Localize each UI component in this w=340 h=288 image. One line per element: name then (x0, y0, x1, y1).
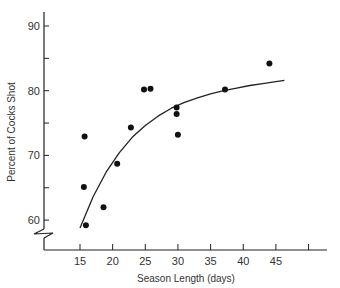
data-points (81, 61, 273, 229)
fitted-curve (80, 80, 284, 228)
data-point (141, 86, 147, 92)
data-point (175, 132, 181, 138)
data-point (222, 86, 228, 92)
x-tick-label: 25 (139, 255, 151, 267)
y-axis-title: Percent of Cocks Shot (6, 82, 17, 182)
data-point (83, 222, 89, 228)
data-point (101, 204, 107, 210)
scatter-chart: 6070809015202530354045 Season Length (da… (0, 0, 340, 288)
y-tick-label: 70 (28, 149, 40, 161)
y-tick-label: 80 (28, 85, 40, 97)
data-point (148, 86, 154, 92)
x-tick-label: 15 (74, 255, 86, 267)
x-tick-label: 35 (204, 255, 216, 267)
data-point (128, 125, 134, 131)
data-point (114, 161, 120, 167)
x-axis-title: Season Length (days) (137, 273, 235, 284)
data-point (174, 105, 180, 111)
y-tick-label: 90 (28, 20, 40, 32)
fitted-curve-line (80, 80, 284, 228)
x-tick-label: 30 (172, 255, 184, 267)
data-point (174, 111, 180, 117)
x-tick-label: 20 (107, 255, 119, 267)
x-tick-label: 45 (270, 255, 282, 267)
data-point (81, 184, 87, 190)
data-point (266, 61, 272, 67)
axes: 6070809015202530354045 (28, 12, 327, 267)
x-tick-label: 40 (237, 255, 249, 267)
y-axis-break-icon (34, 229, 53, 238)
data-point (82, 134, 88, 140)
y-tick-label: 60 (28, 214, 40, 226)
